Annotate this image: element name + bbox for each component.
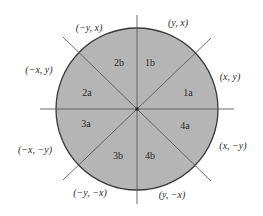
region-label-3b: 3b [113,150,123,161]
region-label-4a: 4a [180,120,190,131]
point-label-y-neg-x: (y, −x) [159,189,186,201]
region-label-1a: 1a [183,87,193,98]
region-label-2a: 2a [82,87,92,98]
region-label-2b: 2b [114,57,124,68]
point-label-neg-y-x: (−y, x) [76,22,103,34]
region-label-1b: 1b [145,57,155,68]
center-point [136,108,139,111]
point-label-neg-y-neg-x: (−y, −x) [73,187,107,199]
region-label-4b: 4b [145,150,155,161]
octant-circle-diagram: 1a1b2a2b3a3b4a4b (x, y)(y, x)(−y, x)(−x,… [0,0,263,216]
point-label-x-neg-y: (x, −y) [219,140,247,152]
region-label-3a: 3a [81,118,91,129]
point-label-neg-x-neg-y: (−x, −y) [18,144,53,156]
point-label-y-x: (y, x) [168,17,189,29]
point-label-neg-x-y: (−x, y) [25,64,53,76]
point-label-x-y: (x, y) [220,71,241,83]
